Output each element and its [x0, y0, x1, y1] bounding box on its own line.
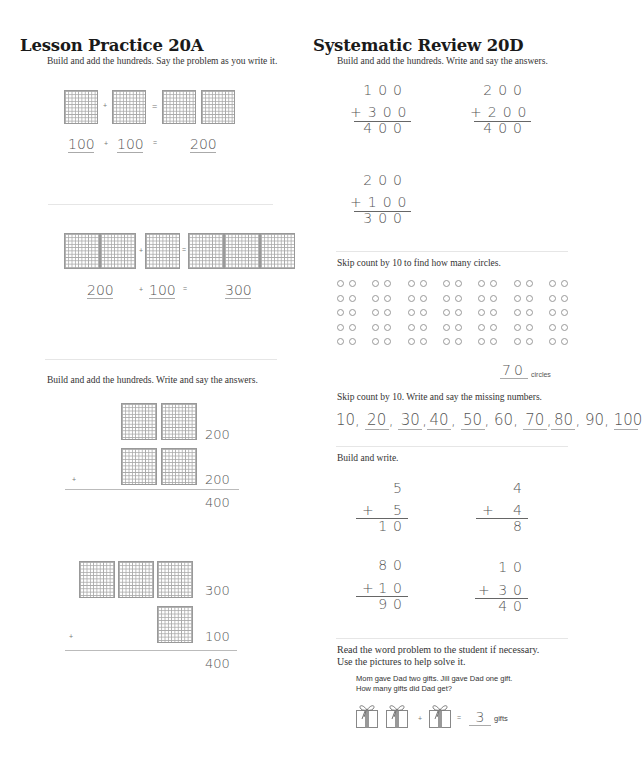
circle-icon — [420, 324, 427, 331]
circle-icon — [443, 295, 450, 302]
plus-sign: + — [72, 476, 76, 483]
addend: 300 — [205, 583, 230, 598]
addend: 100 — [205, 629, 230, 644]
circle-icon — [372, 309, 379, 316]
answer-field: 100 — [614, 411, 638, 430]
equals-sign: = — [182, 246, 186, 253]
plus-sign: + — [418, 715, 422, 722]
hundred-block — [64, 90, 98, 124]
circle-icon — [526, 338, 533, 345]
circle-icon — [549, 324, 556, 331]
answer-field: 300 — [225, 282, 251, 299]
equals-sign: = — [152, 101, 157, 111]
circle-icon — [514, 324, 521, 331]
circle-icon — [420, 338, 427, 345]
addend-top: 200 — [360, 172, 408, 188]
circle-icon — [337, 324, 344, 331]
circle-icon — [337, 295, 344, 302]
circle-icon — [372, 280, 379, 287]
circle-icon — [478, 324, 485, 331]
addend-top: 80 — [360, 557, 408, 573]
circle-icon — [420, 280, 427, 287]
gift-icon — [386, 702, 408, 726]
instruction: Use the pictures to help solve it. — [337, 656, 466, 667]
answer-field: 100 — [68, 136, 94, 153]
circle-icon — [455, 338, 462, 345]
hundred-block — [201, 90, 235, 124]
circle-icon — [408, 338, 415, 345]
answer-field: 20 — [365, 411, 389, 430]
circle-icon — [384, 338, 391, 345]
circle-icon — [455, 295, 462, 302]
divider — [336, 446, 568, 447]
hundred-block — [64, 233, 100, 269]
circle-icon — [478, 338, 485, 345]
addend: 200 — [205, 472, 230, 487]
circle-icon — [514, 309, 521, 316]
circle-icon — [349, 295, 356, 302]
addend-bottom: 5 — [360, 502, 408, 518]
circle-icon — [526, 324, 533, 331]
circle-icon — [408, 295, 415, 302]
circle-icon — [337, 309, 344, 316]
equals-sign: = — [457, 714, 461, 721]
answer-field: 70 — [523, 411, 547, 430]
addend-bottom: 4 — [480, 502, 528, 518]
circle-icon — [514, 280, 521, 287]
answer-field: 200 — [190, 136, 216, 153]
gift-icon — [429, 702, 451, 726]
addend-top: 4 — [480, 480, 528, 496]
circle-icon — [443, 324, 450, 331]
circle-icon — [490, 280, 497, 287]
circle-icon — [455, 280, 462, 287]
word-problem-question: How many gifts did Dad get? — [356, 684, 452, 693]
answer-field: 30 — [398, 411, 422, 430]
circle-icon — [443, 338, 450, 345]
circle-icon — [478, 295, 485, 302]
sum-answer: 400 — [205, 495, 230, 510]
skip-number: 60 — [494, 411, 513, 429]
addend-bottom: 30 — [480, 582, 528, 598]
plus-sign: + — [104, 140, 108, 147]
circle-icon — [349, 280, 356, 287]
sum-answer: 400 — [360, 120, 408, 136]
hundred-block — [188, 233, 224, 269]
lesson-title: Lesson Practice 20A — [20, 36, 203, 55]
answer-field: 200 — [87, 282, 113, 299]
divider — [336, 251, 568, 252]
circle-icon — [349, 338, 356, 345]
circle-icon — [490, 324, 497, 331]
sum-answer: 10 — [360, 518, 408, 534]
answer-field: 100 — [149, 282, 175, 299]
sum-line — [65, 650, 237, 651]
hundred-block — [118, 561, 154, 598]
circle-icon — [384, 280, 391, 287]
sum-answer: 90 — [360, 596, 408, 612]
circle-icon — [384, 324, 391, 331]
answer-field: 3 — [469, 709, 491, 726]
circle-icon — [349, 309, 356, 316]
addend-bottom: +200 — [470, 104, 528, 120]
addend-bottom: +100 — [350, 194, 408, 210]
sum-answer: 400 — [205, 656, 230, 671]
circle-icon — [372, 295, 379, 302]
circle-icon — [408, 280, 415, 287]
instruction: Build and add the hundreds. Write and sa… — [47, 375, 258, 385]
divider — [48, 204, 273, 205]
gift-icon — [356, 702, 378, 726]
circle-icon — [372, 324, 379, 331]
circle-icon — [561, 324, 568, 331]
circle-icon — [490, 338, 497, 345]
circle-icon — [408, 324, 415, 331]
hundred-block — [100, 233, 136, 269]
answer-field: 40 — [427, 411, 451, 430]
instruction: Build and add the hundreds. Write and sa… — [337, 56, 548, 66]
hundred-block — [260, 233, 295, 269]
circle-icon — [561, 338, 568, 345]
circle-icon — [561, 280, 568, 287]
addend-bottom: +300 — [350, 104, 408, 120]
circle-icon — [349, 324, 356, 331]
circle-icon — [526, 309, 533, 316]
hundred-block — [121, 403, 157, 440]
divider — [336, 638, 568, 639]
